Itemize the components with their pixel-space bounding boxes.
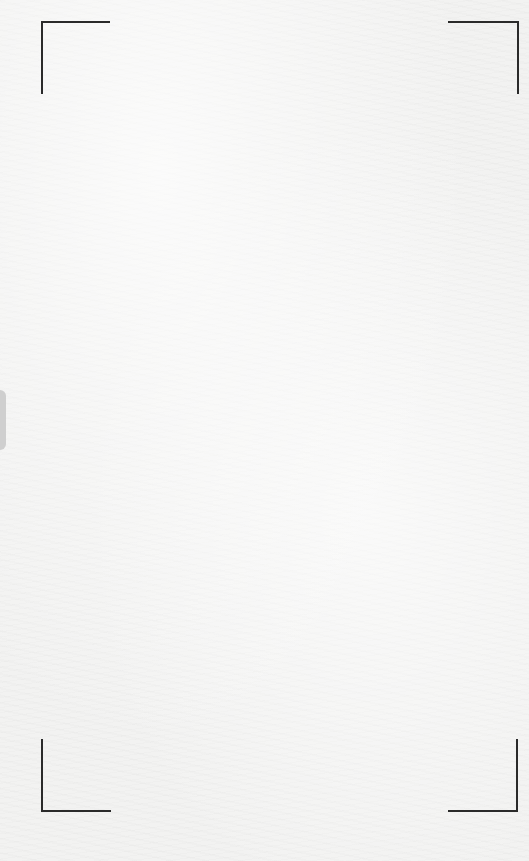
side-panel-handle[interactable] — [0, 390, 6, 450]
scan-frame-corner-bottom-left — [41, 739, 111, 812]
scan-frame-corner-top-right — [448, 21, 519, 94]
scan-frame-corner-top-left — [41, 21, 110, 94]
scan-frame-corner-bottom-right — [448, 739, 518, 812]
camera-viewfinder — [0, 0, 529, 861]
